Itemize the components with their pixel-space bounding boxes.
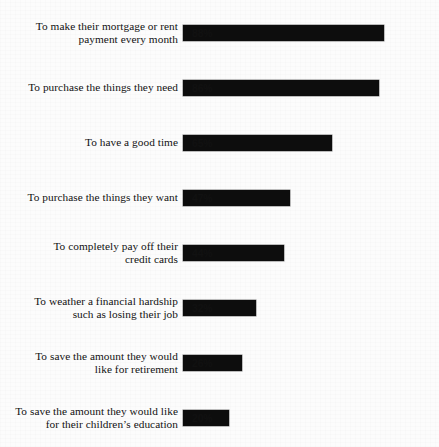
bar-fill <box>183 25 384 41</box>
bar-category-label: To save the amount they would like for r… <box>6 350 178 376</box>
bar-track: 88% <box>183 25 384 41</box>
bar-value-label: 86% <box>192 83 213 94</box>
horizontal-bar-chart: To make their mortgage or rent payment e… <box>0 0 439 447</box>
bar-value-label: 44% <box>192 248 213 259</box>
bar-track: 26% <box>183 355 242 371</box>
bar-value-label: 47% <box>192 193 213 204</box>
bar-row: To completely pay off their credit cards… <box>0 245 439 261</box>
bar-row: To weather a financial hardship such as … <box>0 300 439 316</box>
bar-category-label: To purchase the things they want <box>6 191 178 204</box>
bar-category-label: To save the amount they would like for t… <box>6 405 178 431</box>
bar-row: To purchase the things they need 86% <box>0 80 439 96</box>
bar-value-label: 32% <box>192 303 213 314</box>
bar-category-label: To make their mortgage or rent payment e… <box>6 20 178 46</box>
bar-category-label: To purchase the things they need <box>6 81 178 94</box>
bar-track: 32% <box>183 300 256 316</box>
bar-value-label: 65% <box>192 138 213 149</box>
bar-category-label: To weather a financial hardship such as … <box>6 295 178 321</box>
bar-row: To save the amount they would like for r… <box>0 355 439 371</box>
bar-track: 20% <box>183 410 229 426</box>
bar-value-label: 20% <box>192 413 213 424</box>
bar-track: 44% <box>183 245 284 261</box>
bar-value-label: 88% <box>192 28 213 39</box>
bar-track: 86% <box>183 80 379 96</box>
bar-track: 65% <box>183 135 332 151</box>
bar-category-label: To have a good time <box>6 136 178 149</box>
bar-row: To save the amount they would like for t… <box>0 410 439 426</box>
bar-track: 47% <box>183 190 290 206</box>
bar-row: To make their mortgage or rent payment e… <box>0 25 439 41</box>
bar-row: To purchase the things they want 47% <box>0 190 439 206</box>
bar-category-label: To completely pay off their credit cards <box>6 240 178 266</box>
bar-value-label: 26% <box>192 358 213 369</box>
bar-row: To have a good time 65% <box>0 135 439 151</box>
